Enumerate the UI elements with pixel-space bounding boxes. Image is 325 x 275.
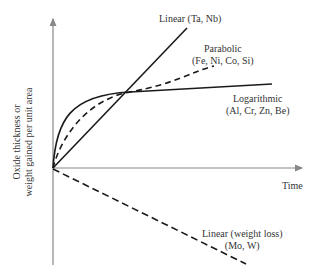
label-logarithmic-name: Logarithmic [226, 93, 289, 105]
x-axis-label: Time [282, 180, 303, 192]
label-parabolic-name: Parabolic [192, 43, 254, 55]
label-parabolic-metals: (Fe, Ni, Co, Si) [192, 55, 254, 67]
y-axis-label: Oxide thickness or weight gained per uni… [11, 67, 35, 217]
curve-parabolic [53, 66, 214, 168]
y-axis-label-line1: Oxide thickness or [11, 67, 23, 217]
label-weight-loss-metals: (Mo, W) [202, 240, 283, 252]
label-logarithmic: Logarithmic (Al, Cr, Zn, Be) [226, 93, 289, 117]
label-linear: Linear (Ta, Nb) [159, 13, 221, 25]
label-parabolic: Parabolic (Fe, Ni, Co, Si) [192, 43, 254, 67]
label-weight-loss: Linear (weight loss) (Mo, W) [202, 228, 283, 252]
curve-linear [53, 28, 187, 168]
oxidation-diagram: Oxide thickness or weight gained per uni… [0, 0, 325, 275]
label-logarithmic-metals: (Al, Cr, Zn, Be) [226, 105, 289, 117]
label-weight-loss-name: Linear (weight loss) [202, 228, 283, 240]
y-axis-label-line2: weight gained per unit area [23, 67, 35, 217]
